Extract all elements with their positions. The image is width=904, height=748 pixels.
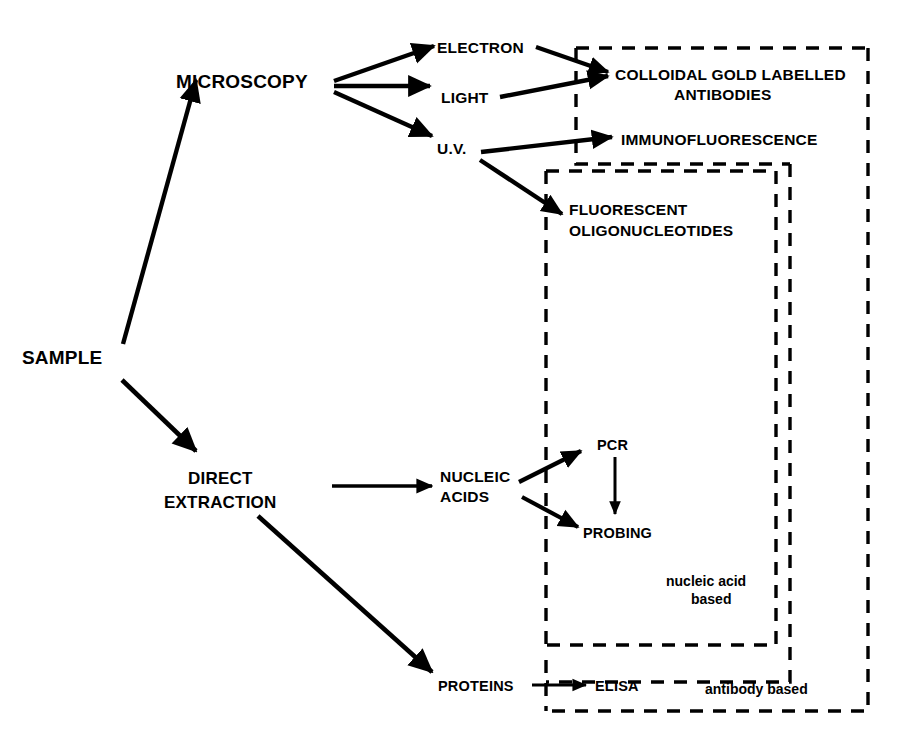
node-probing: PROBING (583, 525, 652, 541)
arrow-sample-to-microscopy (123, 80, 196, 344)
node-fluorescent-oligonucleotides: FLUORESCENT (569, 201, 688, 218)
arrow-microscopy-to-electron (334, 46, 434, 81)
node-proteins: PROTEINS (438, 678, 514, 694)
caption-nucleic-acid-based: nucleic acid (666, 573, 746, 589)
node-microscopy: MICROSCOPY (176, 71, 308, 92)
arrow-direct-extraction-to-proteins (258, 516, 432, 672)
flow-diagram: SAMPLE MICROSCOPY ELECTRON LIGHT U.V. CO… (0, 0, 904, 748)
node-sample: SAMPLE (22, 347, 102, 368)
node-pcr: PCR (597, 437, 629, 453)
arrow-light-to-colloidal-gold (500, 76, 608, 97)
node-electron: ELECTRON (437, 39, 524, 56)
arrow-uv-to-fluorescent-oligonucleotides (480, 160, 562, 214)
arrow-nucleic-acids-to-probing (522, 497, 578, 527)
node-immunofluorescence: IMMUNOFLUORESCENCE (621, 131, 818, 148)
arrow-uv-to-immunofluorescence (481, 137, 612, 152)
node-nucleic-acids: NUCLEIC (440, 468, 510, 485)
caption-antibody-based: antibody based (705, 681, 808, 697)
arrow-microscopy-to-uv (334, 92, 432, 136)
node-elisa: ELISA (595, 678, 639, 694)
arrow-nucleic-acids-to-pcr (519, 451, 581, 482)
arrow-electron-to-colloidal-gold (536, 47, 608, 72)
node-fluorescent-oligonucleotides-line2: OLIGONUCLEOTIDES (569, 222, 733, 239)
node-direct-extraction-line2: EXTRACTION (164, 493, 277, 512)
node-colloidal-gold-labelled-antibodies: COLLOIDAL GOLD LABELLED (615, 66, 846, 83)
diagram-canvas: SAMPLE MICROSCOPY ELECTRON LIGHT U.V. CO… (0, 0, 904, 748)
caption-nucleic-acid-based-line2: based (691, 591, 731, 607)
arrow-sample-to-direct-extraction (122, 380, 196, 451)
node-direct-extraction: DIRECT (188, 469, 253, 488)
node-light: LIGHT (441, 89, 489, 106)
node-nucleic-acids-line2: ACIDS (440, 488, 489, 505)
antibody-inner-right-edge (546, 164, 790, 682)
node-colloidal-gold-antibodies-line2: ANTIBODIES (674, 86, 772, 103)
node-uv: U.V. (437, 140, 467, 157)
